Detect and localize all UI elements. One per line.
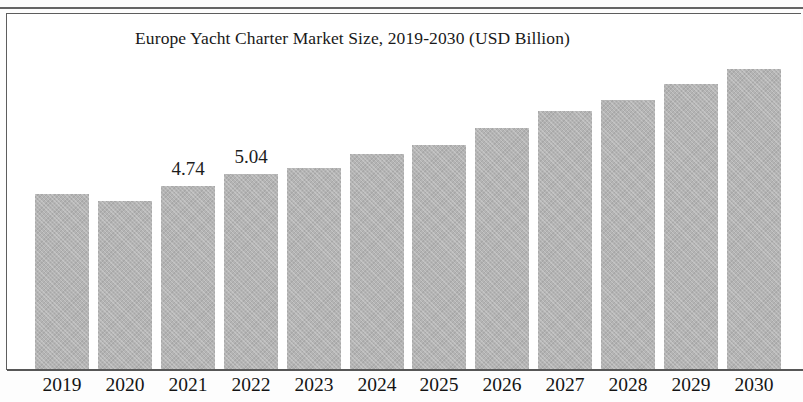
bar — [350, 154, 404, 369]
bar-group: 2024 — [350, 0, 404, 369]
bar-group: 2029 — [664, 0, 718, 369]
scanned-page: Europe Yacht Charter Market Size, 2019-2… — [0, 0, 803, 402]
bar-group: 2026 — [475, 0, 529, 369]
bar — [161, 186, 215, 369]
bar — [601, 100, 655, 369]
bar — [224, 174, 278, 369]
bar — [538, 111, 592, 369]
bar-group: 2019 — [35, 0, 89, 369]
bar-group: 2025 — [412, 0, 466, 369]
bar-group: 2030 — [727, 0, 781, 369]
bar — [98, 201, 152, 369]
bar — [664, 84, 718, 369]
bar-group: 2027 — [538, 0, 592, 369]
bar-group: 2023 — [287, 0, 341, 369]
bar — [727, 69, 781, 369]
bar — [412, 145, 466, 369]
bar-group: 4.742021 — [161, 0, 215, 369]
bar-group: 2028 — [601, 0, 655, 369]
bar — [475, 128, 529, 369]
bar — [287, 168, 341, 369]
plot-area: 201920204.7420215.0420222023202420252026… — [0, 0, 803, 371]
x-axis-tick-label: 2030 — [694, 374, 803, 396]
x-axis-line — [7, 369, 803, 371]
bar-group: 5.042022 — [224, 0, 278, 369]
bar-group: 2020 — [98, 0, 152, 369]
bar — [35, 194, 89, 369]
